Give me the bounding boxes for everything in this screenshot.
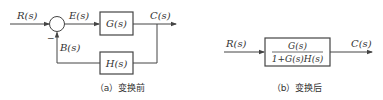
- input-label-r: R(s): [16, 10, 38, 21]
- diagram-before-transform: R(s) − E(s) G(s) C(s) H(s) B(s) （a）变换前: [10, 10, 176, 93]
- diagram-after-transform: R(s) G(s) 1+G(s)H(s) C(s) （b）变换后: [224, 38, 372, 93]
- input-label-r-b: R(s): [225, 38, 247, 49]
- caption-before: （a）变换前: [95, 82, 146, 93]
- block-denominator: 1+G(s)H(s): [272, 54, 324, 64]
- feedback-takeoff-line: [133, 24, 157, 63]
- feedback-block-label: H(s): [105, 58, 128, 69]
- error-label-e: E(s): [68, 10, 89, 21]
- forward-block-label: G(s): [106, 18, 127, 29]
- block-diagram-canvas: R(s) − E(s) G(s) C(s) H(s) B(s) （a）变换前 R…: [0, 0, 383, 100]
- output-label-c-b: C(s): [351, 38, 372, 49]
- feedback-label-b: B(s): [59, 42, 80, 53]
- output-label-c: C(s): [150, 10, 171, 21]
- caption-after: （b）变换后: [272, 82, 323, 93]
- summing-junction: [50, 17, 65, 32]
- feedback-sign-minus: −: [47, 33, 55, 43]
- block-numerator: G(s): [288, 41, 307, 51]
